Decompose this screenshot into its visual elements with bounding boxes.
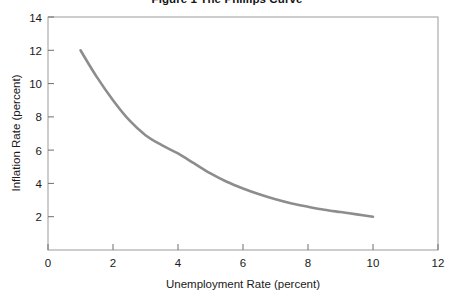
y-tick-label-2: 2: [36, 211, 42, 223]
y-tick-label-10: 10: [29, 78, 42, 90]
x-tick-label-4: 4: [175, 257, 182, 269]
y-tick-label-8: 8: [36, 111, 42, 123]
x-axis-title: Unemployment Rate (percent): [166, 278, 320, 290]
x-axis-tick-labels: 0 2 4 6 8 10 12: [45, 257, 445, 269]
plot-frame: [48, 17, 438, 250]
x-tick-label-8: 8: [305, 257, 311, 269]
chart-plot-area: 14 12 10 8 6 4 2 0 2 4 6 8 10 12: [0, 0, 454, 300]
y-tick-label-4: 4: [36, 178, 43, 190]
y-axis-tick-labels: 14 12 10 8 6 4 2: [29, 12, 42, 224]
x-tick-label-12: 12: [432, 257, 445, 269]
x-tick-label-2: 2: [110, 257, 116, 269]
y-tick-label-12: 12: [29, 45, 42, 57]
y-tick-label-6: 6: [36, 145, 42, 157]
y-axis-title: Inflation Rate (percent): [10, 74, 22, 191]
y-tick-label-14: 14: [29, 12, 42, 24]
phillips-curve-figure: Figure 1 The Phillips Curve 14 12 10 8 6…: [0, 0, 454, 300]
x-tick-label-0: 0: [45, 257, 51, 269]
x-tick-label-10: 10: [367, 257, 380, 269]
x-axis-ticks: [48, 244, 438, 250]
y-axis-ticks: [48, 17, 54, 217]
phillips-curve-line: [81, 50, 374, 216]
x-tick-label-6: 6: [240, 257, 246, 269]
